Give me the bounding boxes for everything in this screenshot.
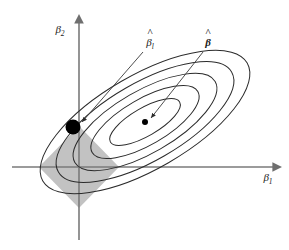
lasso-solution-point [66,120,81,135]
lasso-constraint-figure: β1 β2 βl ^ β ^ [0,0,289,250]
ols-estimate-point [142,119,148,125]
figure-background [0,0,289,250]
beta-2-subscript: 2 [61,29,65,38]
ols-beta-hat-accent: ^ [205,26,211,38]
lasso-beta-subscript: l [152,42,154,51]
figure-canvas: β1 β2 βl ^ β ^ [0,0,289,250]
ols-estimate-label: β ^ [204,26,211,48]
lasso-beta-hat-accent: ^ [147,26,153,38]
beta-1-subscript: 1 [269,177,273,186]
